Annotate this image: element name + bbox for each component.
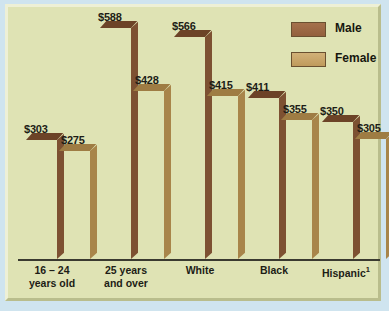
value-label-male-1: $588	[98, 11, 122, 23]
bar-female-4[interactable]	[355, 139, 386, 259]
x-axis-label-4-line1: Hispanic1	[308, 264, 384, 279]
bar-group-1: $588 $428	[100, 11, 166, 259]
value-label-female-3: $355	[283, 103, 307, 115]
bar-side-face	[164, 85, 171, 259]
x-axis-label-1-line1: 25 years	[88, 264, 164, 277]
value-label-female-0: $275	[61, 134, 85, 146]
bar-male-0[interactable]	[26, 140, 57, 259]
bar-side-face	[312, 114, 319, 259]
footnote-marker: 1	[366, 265, 370, 274]
bar-female-3[interactable]	[281, 120, 312, 259]
x-axis-label-1: 25 years and over	[88, 264, 164, 289]
value-label-female-1: $428	[135, 74, 159, 86]
bar-female-0[interactable]	[59, 151, 90, 259]
bar-male-3[interactable]	[248, 98, 279, 259]
bar-group-2: $566 $415	[174, 11, 240, 259]
legend-swatch-female	[291, 52, 326, 67]
x-axis-label-2-line1: White	[162, 264, 238, 277]
bar-male-4[interactable]	[322, 122, 353, 259]
x-axis-label-1-line2: and over	[88, 277, 164, 290]
chart-frame: $303 $275 $588	[5, 4, 381, 301]
value-label-female-4: $305	[357, 122, 381, 134]
value-label-male-4: $350	[320, 105, 344, 117]
x-axis-label-3-line1: Black	[236, 264, 312, 277]
value-label-male-2: $566	[172, 20, 196, 32]
legend-label-female: Female	[335, 51, 376, 65]
bar-group-0: $303 $275	[26, 11, 92, 259]
x-axis-label-2: White	[162, 264, 238, 277]
legend-label-male: Male	[335, 21, 362, 35]
chart-legend: Male Female	[291, 20, 387, 80]
legend-item-male[interactable]: Male	[291, 20, 387, 42]
legend-item-female[interactable]: Female	[291, 50, 387, 72]
bar-side-face	[90, 145, 97, 259]
x-axis-label-4-text: Hispanic	[322, 267, 366, 279]
x-axis-label-0-line2: years old	[14, 277, 90, 290]
bar-female-2[interactable]	[207, 96, 238, 259]
bar-side-face	[238, 90, 245, 259]
x-axis-label-0: 16 – 24 years old	[14, 264, 90, 289]
bar-male-2[interactable]	[174, 37, 205, 259]
x-axis-label-3: Black	[236, 264, 312, 277]
bar-male-1[interactable]	[100, 28, 131, 259]
value-label-female-2: $415	[209, 79, 233, 91]
x-axis-label-0-line1: 16 – 24	[14, 264, 90, 277]
x-axis-line	[18, 259, 380, 261]
bar-female-1[interactable]	[133, 91, 164, 259]
chart-figure: $303 $275 $588	[0, 0, 389, 311]
x-axis-label-4: Hispanic1	[308, 264, 384, 279]
legend-swatch-male	[291, 22, 326, 37]
value-label-male-3: $411	[246, 81, 269, 93]
value-label-male-0: $303	[24, 123, 48, 135]
